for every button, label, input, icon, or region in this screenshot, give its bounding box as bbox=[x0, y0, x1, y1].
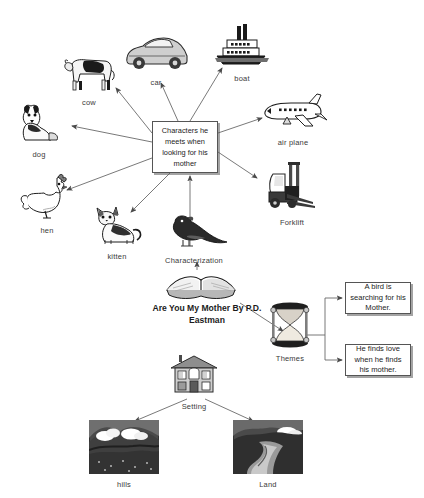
label-land: Land bbox=[259, 480, 277, 489]
label-setting: Setting bbox=[182, 402, 207, 411]
label-car: car bbox=[150, 78, 161, 87]
node-setting[interactable]: Setting bbox=[166, 352, 222, 411]
node-dog[interactable]: dog bbox=[10, 100, 68, 159]
label-themes: Themes bbox=[276, 354, 304, 363]
label-hen: hen bbox=[40, 226, 53, 235]
label-boat: boat bbox=[234, 74, 249, 83]
node-book[interactable] bbox=[160, 266, 244, 306]
node-airplane[interactable]: air plane bbox=[256, 92, 330, 147]
node-land[interactable]: Land bbox=[232, 420, 304, 489]
node-cow[interactable]: cow bbox=[58, 50, 120, 107]
label-hills: hills bbox=[117, 480, 131, 489]
central-node-characters[interactable]: Characters he meets when looking for his… bbox=[152, 121, 218, 173]
cow-icon bbox=[60, 50, 118, 96]
theme-box-searching[interactable]: A bird is searching for his Mother. bbox=[345, 282, 411, 314]
land-icon bbox=[233, 420, 303, 478]
house-icon bbox=[167, 352, 221, 400]
node-hen[interactable]: hen bbox=[18, 172, 76, 235]
car-icon bbox=[121, 28, 191, 76]
label-kitten: kitten bbox=[107, 252, 126, 261]
node-car[interactable]: car bbox=[120, 28, 192, 87]
node-hills[interactable]: hills bbox=[88, 420, 160, 489]
label-dog: dog bbox=[32, 150, 45, 159]
node-kitten[interactable]: kitten bbox=[88, 204, 146, 261]
label-cow: cow bbox=[82, 98, 96, 107]
kitten-icon bbox=[89, 204, 145, 250]
node-forklift[interactable]: Forklift bbox=[262, 160, 322, 227]
node-characterization[interactable]: Characterization bbox=[156, 210, 232, 265]
bird-icon bbox=[157, 210, 231, 254]
airplane-icon bbox=[257, 92, 329, 136]
boat-icon bbox=[213, 22, 271, 72]
hills-icon bbox=[89, 420, 159, 478]
label-airplane: air plane bbox=[278, 138, 309, 147]
hourglass-icon bbox=[265, 302, 315, 352]
node-boat[interactable]: boat bbox=[212, 22, 272, 83]
theme-box-finds-love[interactable]: He finds love when he finds his mother. bbox=[345, 344, 411, 376]
forklift-icon bbox=[263, 160, 321, 216]
hen-icon bbox=[19, 172, 75, 224]
concept-map-canvas: Characters he meets when looking for his… bbox=[0, 0, 424, 498]
label-forklift: Forklift bbox=[280, 218, 304, 227]
open-book-icon bbox=[161, 266, 243, 306]
label-characterization: Characterization bbox=[165, 256, 223, 265]
dog-icon bbox=[11, 100, 67, 148]
node-themes[interactable]: Themes bbox=[264, 302, 316, 363]
